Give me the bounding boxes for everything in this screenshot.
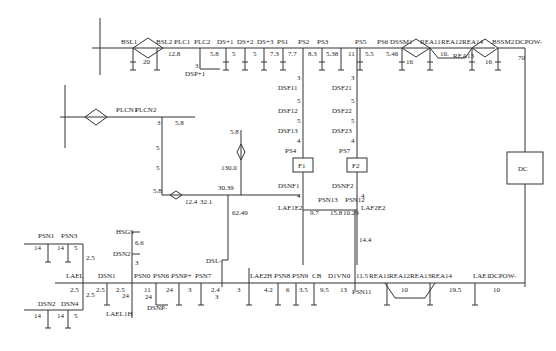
label-psnp: PSNP+ <box>171 272 192 280</box>
label-dsnf1: DSNF1 <box>278 182 300 190</box>
dist: 5 <box>74 244 78 252</box>
label-dsf12: DSF12 <box>278 107 298 115</box>
dist: 10 <box>493 286 501 294</box>
dist: 8.3 <box>308 50 317 58</box>
dist: 4.2 <box>264 286 273 294</box>
dist: 14 <box>34 244 42 252</box>
dist: 19.5 <box>449 286 462 294</box>
dist: 3 <box>157 119 161 127</box>
dist: 3.5 <box>299 286 308 294</box>
dist: 2.5 <box>96 286 105 294</box>
dist: 3 <box>351 74 355 82</box>
dist: 5.46 <box>386 50 399 58</box>
label-dsnf2: DSNF2 <box>332 182 354 190</box>
label-psn12: PSN12 <box>345 196 365 204</box>
label-ps1: PS1 <box>277 38 289 46</box>
label-hsgs: HSGS <box>116 228 134 236</box>
label-ps2: PS2 <box>298 38 310 46</box>
dist: 5 <box>351 117 355 125</box>
dist: 9.5 <box>320 286 329 294</box>
dist: 5 <box>351 97 355 105</box>
dist: 30.39 <box>218 184 234 192</box>
label-psn7: PSN7 <box>195 272 212 280</box>
label-cb: CB <box>312 272 322 280</box>
dist: 16 <box>485 58 493 66</box>
label-rea13b: REA13 <box>410 272 432 280</box>
label-dsp1: DS+1 <box>217 38 234 46</box>
rea-loop-bottom <box>385 283 435 298</box>
label-psn6: PSN6 <box>153 272 170 280</box>
dist: 3 <box>297 74 301 82</box>
box-dc-label: DC <box>518 165 528 173</box>
label-dsf23: DSF23 <box>332 127 352 135</box>
label-dcpowb: DCPOW- <box>489 272 517 280</box>
label-psn11: PSN11 <box>352 288 372 296</box>
label-dcpow: DCPOW- <box>515 38 543 46</box>
label-laf2e2: LAF2E2 <box>361 204 386 212</box>
box-f1-label: F1 <box>298 162 306 170</box>
dist: 3 <box>188 286 192 294</box>
dist: 2.5 <box>86 254 95 262</box>
label-dspp1: DSP+1 <box>185 70 206 78</box>
dist: 6.6 <box>135 239 144 247</box>
dist: 5.38 <box>326 50 339 58</box>
dist: 2.5 <box>70 286 79 294</box>
dist: 13 <box>340 286 348 294</box>
label-bsl2: BSL2 <box>156 38 173 46</box>
label-plc1: PLC1 <box>174 38 191 46</box>
dist: 70 <box>518 54 526 62</box>
dist: 5.5 <box>365 50 374 58</box>
dist: 32.1 <box>200 198 213 206</box>
label-psn3: PSN3 <box>61 232 78 240</box>
dist: 10 <box>401 286 409 294</box>
dist: 5 <box>297 117 301 125</box>
dist: 14 <box>57 312 65 320</box>
dist: 5.8 <box>210 50 219 58</box>
label-dsp3: DS+3 <box>257 38 274 46</box>
dist: 5 <box>253 50 257 58</box>
dist: 16 <box>406 58 414 66</box>
dist: 24 <box>122 292 130 300</box>
label-dsn2-spur: DSN2 <box>113 250 131 258</box>
label-dsn2: DSN2 <box>38 300 56 308</box>
label-psn0: PSN0 <box>134 272 151 280</box>
dist: 11.5 <box>356 272 368 280</box>
dist: 3 <box>135 259 139 267</box>
label-psn13: PSN13 <box>318 196 338 204</box>
label-ps5: PS5 <box>355 38 367 46</box>
dist: 5 <box>74 312 78 320</box>
label-bsl1: BSL1 <box>121 38 138 46</box>
label-dsn1: DSN1 <box>98 272 116 280</box>
label-lael1h: LAEL1H <box>106 310 132 318</box>
dist: 5.8 <box>230 128 239 136</box>
dist: 12.4 <box>185 198 198 206</box>
dist: 15.8 <box>330 209 343 217</box>
label-dsf21: DSF21 <box>332 84 352 92</box>
label-rea11: REA11 <box>420 38 441 46</box>
label-dsn4: DSN4 <box>61 300 79 308</box>
label-dsp2: DS+2 <box>237 38 254 46</box>
dist: 3 <box>215 293 219 301</box>
label-dsf22: DSF22 <box>332 107 352 115</box>
label-lae1: LAE1 <box>473 272 491 280</box>
dist: 5 <box>156 144 160 152</box>
dist: 4 <box>297 192 301 200</box>
dist: 3 <box>237 286 241 294</box>
dist: 130.0 <box>221 164 237 172</box>
label-bssm2: BSSM2 <box>492 38 515 46</box>
label-psn8: PSN8 <box>274 272 291 280</box>
label-rea12: REA12 <box>441 38 463 46</box>
label-d1vn0: D1VN0 <box>328 272 351 280</box>
label-plc2: PLC2 <box>194 38 211 46</box>
dist: 12.8 <box>168 50 181 58</box>
dist: 3 <box>195 62 199 70</box>
dist: 7.7 <box>288 50 297 58</box>
dist: 6 <box>286 286 290 294</box>
dist: 11 <box>348 50 355 58</box>
dsl-line <box>222 195 228 287</box>
label-dsl: DSL- <box>206 257 222 265</box>
label-ps6: PS6 <box>377 38 389 46</box>
dist: 4 <box>297 137 301 145</box>
label-rea11b: REA11 <box>369 272 390 280</box>
label-dsf11: DSF11 <box>278 84 298 92</box>
